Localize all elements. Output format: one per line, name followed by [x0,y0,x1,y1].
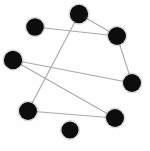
graph-node [19,102,37,120]
graph-node [108,27,126,45]
graph-node [106,109,124,127]
graph-node [70,5,88,23]
graph-node [4,51,22,69]
graph-diagram-canvas [0,0,150,151]
graph-node [26,18,44,36]
graph-svg [0,0,150,151]
graph-node [123,74,141,92]
graph-node [61,121,78,138]
